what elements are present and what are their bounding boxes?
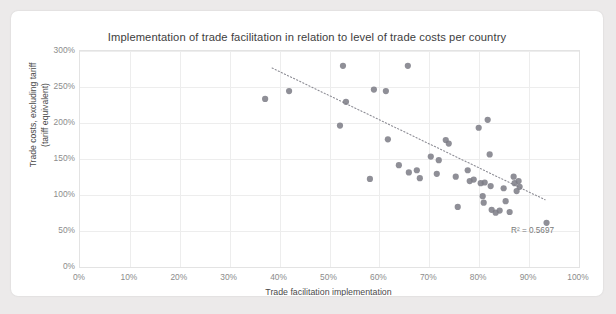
y-axis-tick-label: 50% bbox=[29, 225, 75, 235]
y-axis-title-line2: (tariff equivalent) bbox=[39, 35, 51, 195]
gridline-vertical bbox=[130, 51, 131, 267]
gridline-vertical bbox=[330, 51, 331, 267]
gridline-vertical bbox=[180, 51, 181, 267]
gridline-vertical bbox=[280, 51, 281, 267]
gridline-vertical bbox=[429, 51, 430, 267]
gridline-vertical bbox=[379, 51, 380, 267]
gridline-vertical bbox=[479, 51, 480, 267]
x-axis-tick-label: 100% bbox=[548, 272, 603, 282]
chart-card: Implementation of trade facilitation in … bbox=[11, 11, 603, 296]
gridline-vertical bbox=[230, 51, 231, 267]
x-axis-title: Trade facilitation implementation bbox=[79, 287, 578, 296]
y-axis-tick-label: 0% bbox=[29, 261, 75, 271]
y-axis-title: Trade costs, excluding tariff (tariff eq… bbox=[27, 35, 51, 195]
y-axis-title-line1: Trade costs, excluding tariff bbox=[27, 35, 39, 195]
x-axis-tick-labels: 0%10%20%30%40%50%60%70%80%90%100% bbox=[79, 272, 578, 286]
plot-area bbox=[79, 50, 580, 268]
chart-title: Implementation of trade facilitation in … bbox=[11, 31, 603, 43]
chart-page: Implementation of trade facilitation in … bbox=[0, 0, 616, 314]
r-squared-annotation: R² = 0.5697 bbox=[511, 226, 554, 235]
